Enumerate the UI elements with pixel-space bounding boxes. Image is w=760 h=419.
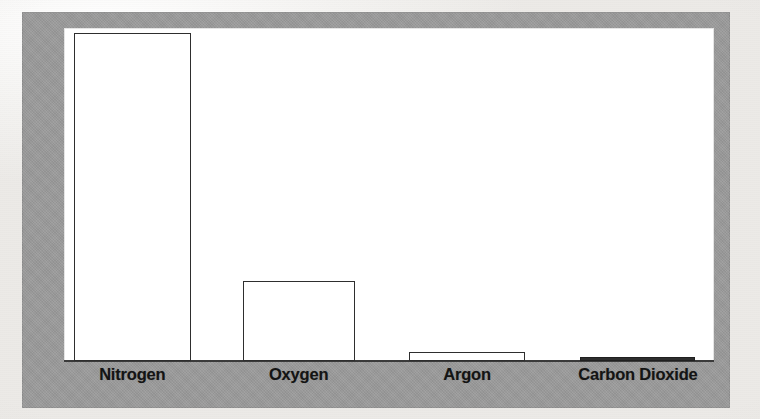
figure-frame: Nitrogen Oxygen Argon Carbon Dioxide (22, 12, 730, 408)
bar-oxygen[interactable] (243, 281, 355, 361)
x-label-carbon-dioxide: Carbon Dioxide (578, 364, 697, 384)
x-label-argon: Argon (443, 364, 491, 384)
bar-nitrogen[interactable] (74, 33, 190, 361)
bar-argon[interactable] (409, 352, 525, 361)
plot-area (64, 28, 714, 362)
bar-carbon-dioxide[interactable] (580, 357, 695, 361)
x-label-oxygen: Oxygen (269, 364, 328, 384)
x-label-nitrogen: Nitrogen (99, 364, 165, 384)
x-axis-label-row: Nitrogen Oxygen Argon Carbon Dioxide (64, 364, 714, 394)
